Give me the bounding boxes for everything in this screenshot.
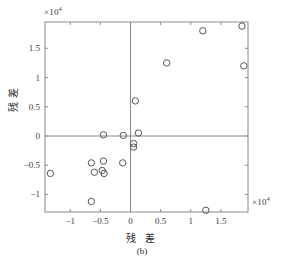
x-exponent-power: 4 bbox=[267, 196, 270, 202]
data-point bbox=[100, 132, 106, 138]
x-tick-label: 1.5 bbox=[215, 216, 226, 226]
plot-frame bbox=[45, 22, 248, 212]
x-tick-label: 0.5 bbox=[155, 216, 166, 226]
x-exponent-mantissa: ×10 bbox=[252, 197, 267, 207]
plot-border bbox=[45, 22, 248, 212]
data-point bbox=[241, 63, 247, 69]
x-axis-title: 残 差 bbox=[0, 230, 284, 245]
data-point bbox=[88, 160, 94, 166]
data-point bbox=[100, 158, 106, 164]
y-tick-label: −0.5 bbox=[24, 160, 40, 170]
zero-axis-lines bbox=[45, 22, 248, 212]
data-point bbox=[135, 130, 141, 136]
data-point bbox=[120, 160, 126, 166]
data-point bbox=[47, 170, 53, 176]
data-point bbox=[132, 98, 138, 104]
y-exponent-mantissa: ×10 bbox=[44, 7, 59, 17]
data-point bbox=[120, 132, 126, 138]
data-point bbox=[163, 60, 169, 66]
data-point bbox=[91, 169, 97, 175]
y-axis-exponent-label: ×104 bbox=[44, 8, 62, 17]
y-tick-label: 1.5 bbox=[29, 43, 40, 53]
data-point-series bbox=[47, 23, 247, 214]
data-point bbox=[200, 28, 206, 34]
y-exponent-power: 4 bbox=[59, 6, 62, 12]
y-axis-title: 残 差 bbox=[5, 80, 20, 120]
scatter-plot-figure: ×104 ×104 −1−0.500.511.5−1−0.500.511.5 残… bbox=[0, 0, 284, 262]
x-tick-label: 0 bbox=[128, 216, 133, 226]
data-point bbox=[88, 198, 94, 204]
y-tick-label: −1 bbox=[30, 189, 40, 199]
y-tick-label: 1 bbox=[36, 73, 41, 83]
axis-ticks bbox=[45, 22, 248, 212]
plot-canvas bbox=[0, 0, 284, 262]
y-tick-label: 0.5 bbox=[29, 102, 40, 112]
x-tick-label: −0.5 bbox=[92, 216, 108, 226]
y-tick-label: 0 bbox=[36, 131, 41, 141]
x-tick-label: −1 bbox=[66, 216, 76, 226]
x-axis-exponent-label: ×104 bbox=[252, 198, 270, 207]
figure-caption: (b) bbox=[0, 246, 284, 256]
x-tick-label: 1 bbox=[189, 216, 194, 226]
data-point bbox=[239, 23, 245, 29]
